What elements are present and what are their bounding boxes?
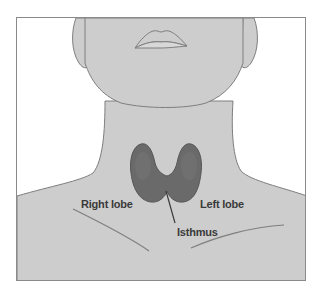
label-isthmus: Isthmus (177, 226, 218, 238)
diagram-frame: Right lobe Left lobe Isthmus (16, 17, 306, 281)
label-right-lobe: Right lobe (81, 198, 133, 210)
label-left-lobe: Left lobe (200, 198, 244, 210)
neck-illustration (17, 18, 306, 281)
